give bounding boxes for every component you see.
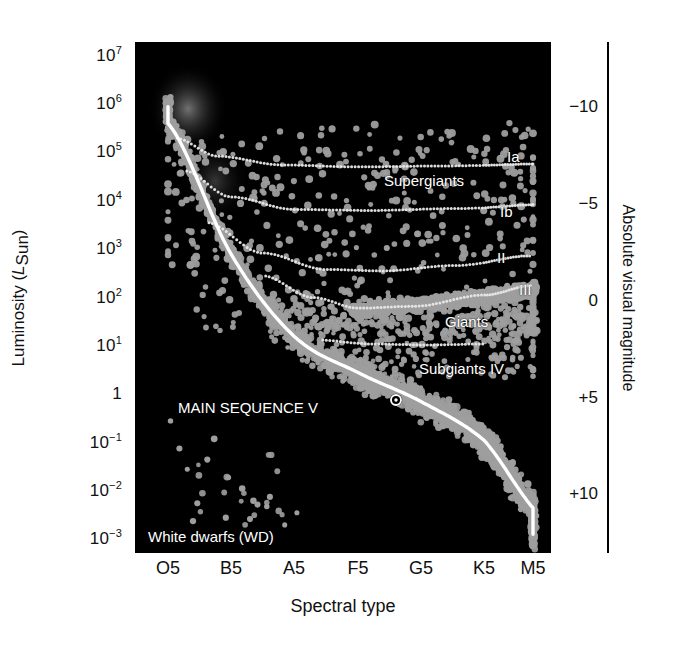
x-tick-label: A5: [283, 558, 305, 579]
x-tick-label: B5: [220, 558, 242, 579]
supergiants-label: Supergiants: [384, 172, 464, 189]
x-tick-label: F5: [347, 558, 368, 579]
main-sequence-label: MAIN SEQUENCE V: [178, 399, 318, 416]
right-axis-title: Absolute visual magnitude: [614, 42, 642, 553]
y-tick-label: 104: [96, 191, 122, 211]
right-tick-label: +10: [569, 484, 598, 504]
white-dwarfs-label: White dwarfs (WD): [148, 528, 274, 545]
right-axis-ticks: −10−50+5+10: [552, 42, 604, 553]
hr-diagram-figure: Luminosity (LSun) 1071061051041031021011…: [0, 0, 674, 649]
x-axis-title: Spectral type: [135, 596, 551, 617]
x-axis-ticks: O5B5A5F5G5K5M5: [135, 558, 551, 584]
right-tick-label: +5: [579, 388, 598, 408]
y-axis-title-prefix: Luminosity (: [9, 274, 28, 366]
scatter-canvas: [135, 42, 551, 553]
y-tick-label: 107: [96, 46, 122, 66]
y-tick-label: 105: [96, 142, 122, 162]
y-tick-label: 10−2: [90, 481, 122, 501]
right-tick-label: −10: [569, 97, 598, 117]
x-tick-label: O5: [156, 558, 180, 579]
y-axis-title-subscript: Sun: [13, 235, 32, 265]
giants-label: Giants: [445, 313, 488, 330]
y-tick-label: 10−1: [90, 433, 122, 453]
y-tick-label: 101: [96, 336, 122, 356]
class-iii-label: III: [519, 281, 532, 298]
right-axis-line: [607, 42, 609, 553]
y-axis-title-suffix: ): [9, 229, 28, 235]
y-tick-label: 1: [112, 384, 122, 404]
sun-symbol: [390, 394, 402, 406]
right-tick-label: −5: [579, 194, 598, 214]
x-tick-label: G5: [409, 558, 433, 579]
y-tick-label: 10−3: [90, 529, 122, 549]
y-axis-title-symbol: L: [9, 265, 28, 274]
subgiants-label: Subgiants IV: [419, 360, 504, 377]
x-tick-label: M5: [520, 558, 545, 579]
y-tick-label: 103: [96, 239, 122, 259]
right-tick-label: 0: [589, 291, 598, 311]
y-tick-label: 102: [96, 288, 122, 308]
y-axis-title: Luminosity (LSun): [6, 42, 32, 553]
y-axis-ticks: 107106105104103102101110−110−210−3: [40, 42, 130, 553]
x-tick-label: K5: [473, 558, 495, 579]
y-tick-label: 106: [96, 94, 122, 114]
right-axis-title-text: Absolute visual magnitude: [619, 204, 637, 391]
class-ii-label: II: [497, 249, 505, 266]
class-ia-label: Ia: [507, 148, 520, 165]
class-ib-label: Ib: [500, 203, 513, 220]
plot-area: [135, 42, 551, 553]
